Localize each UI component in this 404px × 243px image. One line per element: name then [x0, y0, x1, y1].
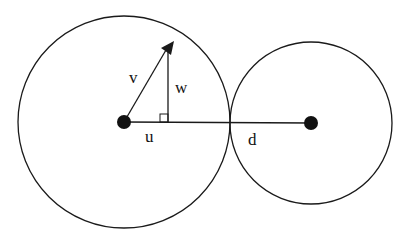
right-angle-marker [160, 114, 168, 122]
diagram-canvas: v w u d [0, 0, 404, 243]
center-line [124, 122, 311, 123]
right-center-dot [304, 116, 318, 130]
label-w: w [175, 78, 188, 97]
left-center-dot [117, 115, 131, 129]
label-u: u [145, 127, 154, 146]
label-d: d [248, 130, 257, 149]
label-v: v [129, 68, 138, 87]
